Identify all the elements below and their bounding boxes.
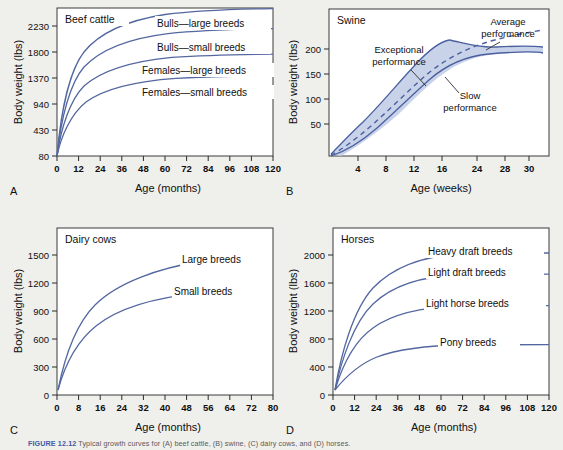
annotation-slow-performance-line1: Slow (460, 90, 481, 101)
panel-c-xtick-1: 8 (76, 402, 81, 413)
panel-b-xtick-5: 28 (500, 163, 511, 174)
panel-d-ytick-5: 2000 (304, 250, 325, 261)
panel-a-svg: 80 430 940 1370 1800 2230 (0, 0, 281, 215)
panel-d-curve-label-1: Light draft breeds (428, 267, 506, 278)
panel-c-xtick-2: 16 (95, 402, 106, 413)
panel-c-ytick-2: 600 (33, 334, 49, 345)
panel-a-xtick-5: 60 (160, 163, 171, 174)
panel-d-xtick-10: 120 (541, 402, 557, 413)
panel-b-swine: 50 100 150 200 4 8 12 16 24 2 (281, 0, 563, 215)
annotation-slow-performance-line2: performance (443, 102, 496, 113)
panel-c-xlabel: Age (months) (135, 421, 201, 433)
panel-b-xtick-4: 24 (472, 163, 483, 174)
panel-c-svg: 0 300 600 900 1200 1500 (0, 218, 281, 450)
panel-a-letter: A (10, 185, 18, 197)
panel-c-curve-label-0: Large breeds (182, 254, 241, 265)
panel-b-xtick-1: 8 (383, 163, 388, 174)
panel-c-curve-label-1: Small breeds (174, 286, 232, 297)
panel-d-svg: 0 400 800 1200 1600 2000 (281, 218, 563, 450)
panel-d-xtick-6: 72 (457, 402, 468, 413)
panel-d-xlabel: Age (months) (411, 421, 477, 433)
panel-b-letter: B (286, 185, 293, 197)
panel-a-xtick-1: 12 (73, 163, 84, 174)
panel-c-xtick-8: 64 (225, 402, 236, 413)
figure-caption-label: FIGURE 12.12 (28, 441, 76, 448)
panel-d-ytick-4: 1600 (304, 278, 325, 289)
panel-d-title-group: Horses (339, 231, 387, 246)
panel-a-xtick-8: 96 (225, 163, 236, 174)
panel-a-ylabel: Body weight (lbs) (12, 40, 24, 124)
panel-c-letter: C (10, 424, 18, 436)
panel-c-xtick-4: 32 (138, 402, 149, 413)
panel-c-xtick-9: 72 (246, 402, 257, 413)
panel-a-xtick-3: 36 (117, 163, 128, 174)
panel-b-title: Swine (337, 14, 366, 26)
panel-d-ytick-1: 400 (309, 362, 325, 373)
panel-b-ylabel: Body weight (lbs) (287, 40, 299, 124)
panel-a-ytick-5: 2230 (28, 21, 49, 32)
panel-d-curve-label-0: Heavy draft breeds (428, 246, 513, 257)
panel-d-xtick-9: 108 (519, 402, 535, 413)
panel-d-xtick-1: 12 (349, 402, 360, 413)
panel-d-xtick-8: 96 (501, 402, 512, 413)
panel-a-xtick-2: 24 (95, 163, 106, 174)
panel-a-ytick-2: 940 (33, 99, 49, 110)
panel-a-ytick-3: 1370 (28, 73, 49, 84)
panel-a-xtick-4: 48 (138, 163, 149, 174)
panel-a-xtick-7: 84 (203, 163, 214, 174)
panel-c-ytick-0: 0 (44, 390, 49, 401)
panel-d-xtick-4: 48 (414, 402, 425, 413)
panel-d-xtick-0: 0 (330, 402, 335, 413)
panel-a-xlabel: Age (months) (135, 182, 201, 194)
panel-b-ytick-2: 150 (305, 69, 321, 80)
figure-caption-body: Typical growth curves for (A) beef cattl… (78, 441, 350, 448)
panel-b-xtick-6: 30 (524, 163, 535, 174)
panel-d-ylabel: Body weight (lbs) (287, 269, 299, 353)
panel-c-ylabel: Body weight (lbs) (12, 269, 24, 353)
panel-d-xtick-7: 84 (479, 402, 490, 413)
panel-b-title-group: Swine (335, 12, 379, 27)
panel-a-curve-label-2: Females—large breeds (142, 65, 246, 76)
panel-c-title: Dairy cows (65, 233, 116, 245)
panel-c-ytick-5: 1500 (28, 250, 49, 261)
panel-b-ytick-3: 200 (305, 44, 321, 55)
panel-c-xtick-6: 48 (181, 402, 192, 413)
panel-d-ytick-3: 1200 (304, 306, 325, 317)
panel-b-xtick-2: 12 (409, 163, 420, 174)
panel-b-xtick-0: 4 (355, 163, 361, 174)
panel-a-ytick-4: 1800 (28, 47, 49, 58)
panel-c-xtick-0: 0 (54, 402, 59, 413)
panel-d-xtick-3: 36 (393, 402, 404, 413)
panel-a-curve-label-1: Bulls—small breeds (157, 42, 245, 53)
panel-b-xtick-3: 16 (437, 163, 448, 174)
panel-d-xtick-5: 60 (436, 402, 447, 413)
panel-c-title-group: Dairy cows (63, 231, 131, 246)
panel-c-xtick-5: 40 (160, 402, 171, 413)
panel-c-dairy-cows: 0 300 600 900 1200 1500 (0, 218, 281, 450)
panel-a-xtick-10: 120 (265, 163, 281, 174)
panel-b-ytick-1: 100 (305, 94, 321, 105)
panel-a-xtick-6: 72 (181, 163, 192, 174)
panel-d-curve-label-2: Light horse breeds (426, 298, 509, 309)
panel-d-xtick-2: 24 (371, 402, 382, 413)
panel-a-xtick-9: 108 (243, 163, 259, 174)
panel-d-curve-label-3: Pony breeds (440, 337, 496, 348)
figure-container: 80 430 940 1370 1800 2230 (0, 0, 563, 450)
annotation-average-performance-line1: Average (490, 16, 525, 27)
panel-a-curve-label-3: Females—small breeds (142, 87, 247, 98)
figure-caption-strip: FIGURE 12.12 Typical growth curves for (… (0, 441, 563, 450)
panel-a-xtick-0: 0 (54, 163, 59, 174)
panel-d-ytick-2: 800 (309, 334, 325, 345)
panel-c-xtick-10: 80 (268, 402, 279, 413)
annotation-average-performance-line2: performance (481, 28, 534, 39)
panel-a-title: Beef cattle (65, 13, 115, 25)
panel-c-ytick-4: 1200 (28, 278, 49, 289)
figure-caption: FIGURE 12.12 Typical growth curves for (… (28, 441, 350, 448)
panel-c-ytick-3: 900 (33, 306, 49, 317)
panel-b-svg: 50 100 150 200 4 8 12 16 24 2 (281, 0, 563, 215)
panel-a-title-group: Beef cattle (63, 11, 129, 26)
panel-d-ytick-0: 0 (320, 390, 325, 401)
annotation-exceptional-performance-line1: Exceptional (374, 44, 423, 55)
panel-c-xtick-3: 24 (117, 402, 128, 413)
panel-c-xtick-7: 56 (203, 402, 214, 413)
